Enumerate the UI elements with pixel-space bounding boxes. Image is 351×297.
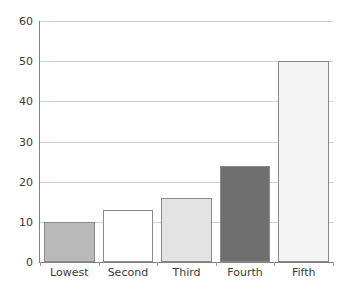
- y-tick-label-20: 20: [2, 178, 33, 188]
- bar-slot: [220, 21, 271, 262]
- x-tick-label-third: Third: [157, 266, 216, 280]
- y-tick-label-10: 10: [2, 218, 33, 228]
- bars-layer: [40, 21, 333, 262]
- bar-fifth[interactable]: [278, 61, 329, 262]
- bar-second[interactable]: [103, 210, 154, 262]
- x-tick-label-lowest: Lowest: [40, 266, 99, 280]
- x-tick-label-fifth: Fifth: [274, 266, 333, 280]
- x-tick-label-second: Second: [99, 266, 158, 280]
- bar-chart: 60 50 40 30 20 10 0 LowestSecondThirdFou…: [0, 0, 351, 297]
- bar-lowest[interactable]: [44, 222, 95, 262]
- y-tick-label-30: 30: [2, 138, 33, 148]
- y-tick-label-0: 0: [2, 258, 33, 268]
- bar-slot: [103, 21, 154, 262]
- y-tick-label-60: 60: [2, 17, 33, 27]
- x-axis-tick-labels: LowestSecondThirdFourthFifth: [40, 266, 333, 288]
- bar-third[interactable]: [161, 198, 212, 262]
- bar-fourth[interactable]: [220, 166, 271, 262]
- bar-slot: [44, 21, 95, 262]
- y-tick-label-50: 50: [2, 57, 33, 67]
- bar-slot: [161, 21, 212, 262]
- y-tick-label-40: 40: [2, 97, 33, 107]
- x-tick-label-fourth: Fourth: [216, 266, 275, 280]
- x-tick-mark: [333, 262, 334, 266]
- x-axis-line: [39, 262, 333, 263]
- bar-slot: [278, 21, 329, 262]
